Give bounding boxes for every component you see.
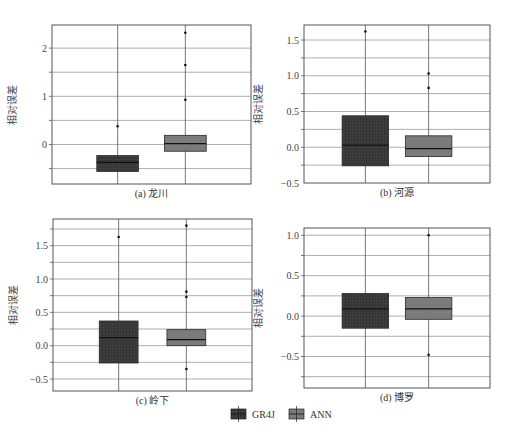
y-tick-label: 1.0 <box>36 274 49 285</box>
y-tick-label: 0.0 <box>287 311 300 322</box>
y-axis-label: 相对误差 <box>7 285 19 325</box>
subplot-title: (a) 龙川 <box>135 187 169 200</box>
y-tick-label: −0.5 <box>30 374 48 385</box>
box-gr4j <box>342 116 389 166</box>
outlier-point <box>364 30 367 33</box>
y-tick-label: 0.0 <box>36 340 49 351</box>
y-tick-label: 1.0 <box>287 230 300 241</box>
y-tick-label: 0.0 <box>287 142 300 153</box>
y-tick-label: 0.5 <box>287 270 300 281</box>
legend: GR4JANN <box>231 406 332 422</box>
box-ann <box>405 136 452 157</box>
y-axis-label: 相对误差 <box>6 85 18 125</box>
y-tick-label: 1.0 <box>287 70 300 81</box>
outlier-point <box>185 296 188 299</box>
plot-area <box>304 25 490 183</box>
box-ann <box>167 330 206 346</box>
legend-label: ANN <box>310 409 332 420</box>
box-gr4j <box>342 293 389 328</box>
plot-area <box>53 219 252 391</box>
y-axis-label: 相对误差 <box>252 288 264 328</box>
outlier-point <box>116 125 119 128</box>
subplot-title: (d) 博罗 <box>380 391 414 404</box>
outlier-point <box>184 31 187 34</box>
y-tick-label: 2 <box>42 43 47 54</box>
y-tick-label: 1.5 <box>287 35 300 46</box>
outlier-point <box>184 64 187 67</box>
subplot-title: (b) 河源 <box>380 186 414 199</box>
outlier-point <box>427 87 430 90</box>
subplot-panels: 012相对误差(a) 龙川0.00.51.01.5−0.5相对误差(b) 河源−… <box>6 25 490 407</box>
outlier-point <box>427 72 430 75</box>
y-tick-label: 1 <box>42 91 47 102</box>
outlier-point <box>185 224 188 227</box>
box-gr4j <box>97 156 139 172</box>
legend-label: GR4J <box>252 409 275 420</box>
y-tick-label: 1.5 <box>36 240 49 251</box>
legend-item-gr4j: GR4J <box>231 406 275 422</box>
y-tick-label: −0.5 <box>281 351 299 362</box>
subplot-title: (c) 岭下 <box>136 394 170 407</box>
y-tick-label: −0.5 <box>281 178 299 189</box>
subplot-3: −0.50.00.51.01.5相对误差(c) 岭下 <box>7 219 252 407</box>
y-tick-label: 0.5 <box>287 106 300 117</box>
outlier-point <box>117 236 120 239</box>
outlier-point <box>427 354 430 357</box>
box-gr4j <box>99 321 138 363</box>
outlier-point <box>427 234 430 237</box>
subplot-1: 012相对误差(a) 龙川 <box>6 25 251 200</box>
subplot-2: 0.00.51.01.5−0.5相对误差(b) 河源 <box>252 25 490 199</box>
plot-area <box>52 25 251 184</box>
subplot-4: −0.50.00.51.0相对误差(d) 博罗 <box>252 228 490 404</box>
outlier-point <box>185 290 188 293</box>
plot-area <box>304 228 490 388</box>
y-tick-label: 0.5 <box>36 307 49 318</box>
y-tick-label: 0 <box>42 139 47 150</box>
outlier-point <box>184 98 187 101</box>
y-axis-label: 相对误差 <box>252 84 264 124</box>
boxplot-figure: 012相对误差(a) 龙川0.00.51.01.5−0.5相对误差(b) 河源−… <box>0 0 508 443</box>
legend-item-ann: ANN <box>289 406 332 422</box>
outlier-point <box>185 368 188 371</box>
